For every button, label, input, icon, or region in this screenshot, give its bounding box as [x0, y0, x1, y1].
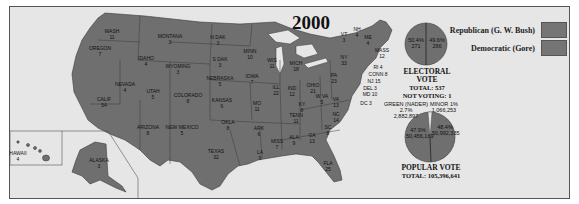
state-label-tenn: TENN11 [289, 112, 303, 124]
state-label-ark: ARK6 [254, 125, 264, 137]
state-label-miss: MISS7 [271, 138, 283, 150]
state-label-nc: NC14 [332, 111, 339, 123]
state-label-wyoming: WYOMING3 [166, 63, 191, 75]
state-label-nebraska: NEBRASKA5 [206, 75, 233, 87]
popular-caption: POPULAR VOTE TOTAL: 105,396,641 [396, 164, 466, 180]
state-label-calif: CALIF54 [97, 96, 111, 108]
state-label-nevada: NEVADA4 [115, 81, 135, 93]
state-label-va: VA13 [333, 96, 339, 108]
state-label-ala: ALA9 [289, 134, 298, 146]
nader-label: GREEN (NADER)2.7%2,882,897 [384, 101, 428, 119]
state-label-conn: CONN 8 [369, 71, 388, 77]
state-label-me: ME4 [364, 34, 372, 46]
state-label-montana: MONTANA3 [158, 33, 183, 45]
legend-label-democratic: Democratic (Gore) [471, 44, 535, 53]
state-label-wis: WIS11 [267, 57, 276, 69]
state-label-mich: MICH18 [290, 60, 303, 72]
state-label-la: LA9 [257, 149, 263, 161]
state-label-sdak: S DAK3 [212, 56, 227, 68]
popular-bush-label: 47.9%50,456,169 [406, 127, 430, 139]
state-label-arizona: ARIZONA8 [137, 124, 159, 136]
state-label-wva: W VA5 [316, 93, 328, 105]
state-label-kansas: KANSAS6 [212, 97, 232, 109]
state-label-nh: NH4 [353, 26, 360, 38]
democratic-swatch [541, 40, 567, 56]
electoral-title: ELECTORAL VOTE [396, 68, 458, 84]
state-label-utah: UTAH5 [146, 88, 159, 100]
state-label-okla: OKLA8 [221, 119, 234, 131]
state-label-dc: DC 3 [360, 100, 371, 106]
state-label-ndak: N DAK3 [210, 34, 225, 46]
state-label-ri: RI 4 [373, 64, 382, 70]
state-label-colorado: COLORADO8 [174, 92, 203, 104]
state-label-fla: FLA25 [323, 160, 332, 172]
electoral-bush-label: 50.4%271 [407, 37, 425, 49]
electoral-gore-label: 49.6%266 [428, 37, 446, 49]
legend-democratic: Democratic (Gore) [471, 40, 567, 56]
state-label-md: MD 10 [363, 91, 378, 97]
state-label-ny: NY33 [341, 54, 348, 66]
state-label-ill: ILL22 [273, 84, 280, 96]
minor-label: MINOR 1%1,066,253 [430, 101, 458, 113]
state-label-new-mexico: NEW MEXICO5 [166, 124, 199, 136]
state-label-pa: PA23 [331, 72, 337, 84]
electoral-not-voting: NOT VOTING: 1 [396, 92, 458, 100]
state-label-vt: VT3 [341, 31, 347, 43]
state-label-iowa: IOWA7 [245, 73, 258, 85]
state-label-minn: MINN10 [244, 48, 257, 60]
state-label-texas: TEXAS32 [208, 148, 224, 160]
state-label-alaska: ALASKA3 [89, 157, 108, 169]
state-label-sc: SC8 [325, 124, 332, 136]
state-label-idaho: IDAHO4 [138, 55, 154, 67]
state-label-ga: GA13 [308, 132, 315, 144]
legend-republican: Republican (G. W. Bush) [450, 22, 567, 38]
state-label-oregon: OREGON7 [89, 45, 111, 57]
popular-gore-label: 48.4%50,992,335 [432, 124, 458, 136]
state-label-wash: WASH11 [105, 28, 120, 40]
popular-title: POPULAR VOTE [396, 164, 466, 172]
state-label-mo: MO11 [253, 100, 261, 112]
legend-label-republican: Republican (G. W. Bush) [450, 26, 535, 35]
electoral-caption: ELECTORAL VOTE TOTAL: 537 NOT VOTING: 1 [396, 68, 458, 100]
republican-swatch [541, 22, 567, 38]
state-label-mass: MASS12 [375, 47, 389, 59]
popular-total: TOTAL: 105,396,641 [396, 172, 466, 180]
electoral-total: TOTAL: 537 [396, 84, 458, 92]
state-label-nj: NJ 15 [367, 78, 380, 84]
map-title: 2000 [292, 12, 330, 34]
state-label-ind: IND12 [288, 85, 297, 97]
state-label-hawaii: HAWAII4 [9, 150, 26, 162]
